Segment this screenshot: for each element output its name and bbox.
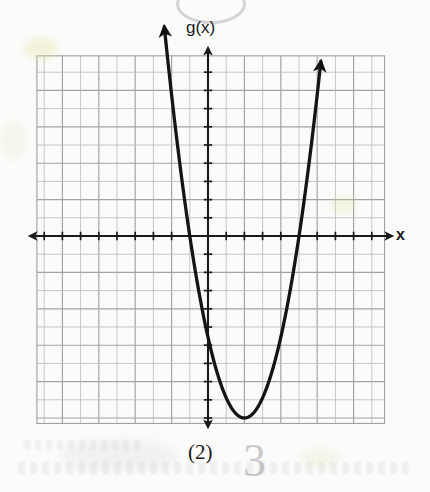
grid-lines xyxy=(37,56,385,424)
coordinate-graph xyxy=(0,0,430,492)
choice-number-label: (2) xyxy=(188,440,213,465)
worksheet-page: 3 g(x) x (2) xyxy=(0,0,430,492)
axes xyxy=(30,48,392,427)
y-axis-label: g(x) xyxy=(186,18,215,38)
x-axis-label: x xyxy=(396,226,405,244)
parabola-curve xyxy=(164,27,321,418)
